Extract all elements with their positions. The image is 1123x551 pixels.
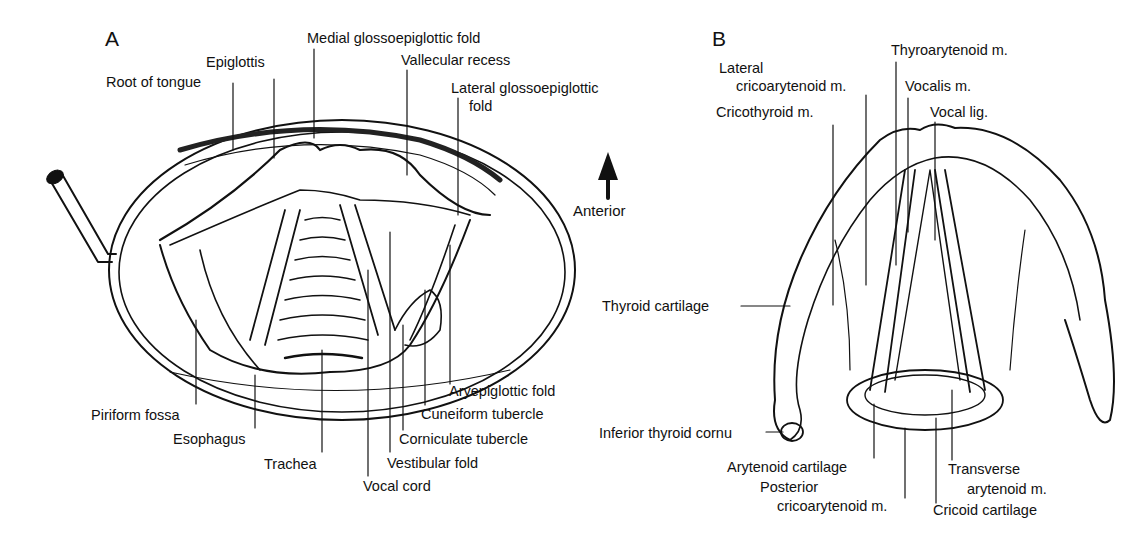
label-medial-glossoepiglottic-fold: Medial glossoepiglottic fold bbox=[307, 30, 480, 46]
label-trachea: Trachea bbox=[264, 456, 317, 472]
label-piriform-fossa: Piriform fossa bbox=[91, 407, 180, 423]
panel-b-letter: B bbox=[712, 28, 726, 50]
label-cuneiform-tubercle: Cuneiform tubercle bbox=[421, 406, 544, 422]
anterior-arrow-drawing bbox=[598, 152, 618, 198]
label-lateral-cricoarytenoid-cont: cricoarytenoid m. bbox=[736, 78, 846, 94]
panel-b-drawing bbox=[741, 62, 1114, 503]
label-vocalis-m: Vocalis m. bbox=[905, 78, 971, 94]
label-arytenoid-cartilage: Arytenoid cartilage bbox=[727, 459, 847, 475]
label-lateral-cricoarytenoid: Lateral bbox=[719, 60, 763, 76]
label-transverse-arytenoid: Transverse bbox=[948, 461, 1020, 477]
label-epiglottis: Epiglottis bbox=[206, 54, 265, 70]
label-vallecular-recess: Vallecular recess bbox=[401, 52, 510, 68]
anterior-label: Anterior bbox=[573, 203, 626, 219]
label-lateral-glossoepiglottic-fold: Lateral glossoepiglottic bbox=[451, 80, 599, 96]
label-esophagus: Esophagus bbox=[173, 431, 246, 447]
label-posterior-cricoarytenoid: Posterior bbox=[760, 479, 818, 495]
label-transverse-arytenoid-cont: arytenoid m. bbox=[967, 481, 1047, 497]
label-vestibular-fold: Vestibular fold bbox=[387, 455, 478, 471]
label-thyroid-cartilage: Thyroid cartilage bbox=[602, 298, 709, 314]
label-root-of-tongue: Root of tongue bbox=[106, 74, 201, 90]
label-inferior-thyroid-cornu: Inferior thyroid cornu bbox=[599, 425, 732, 441]
label-lateral-glossoepiglottic-fold-cont: fold bbox=[469, 98, 492, 114]
label-vocal-cord: Vocal cord bbox=[363, 478, 431, 494]
label-cricoid-cartilage: Cricoid cartilage bbox=[933, 502, 1037, 518]
label-thyroarytenoid-m: Thyroarytenoid m. bbox=[891, 42, 1008, 58]
label-posterior-cricoarytenoid-cont: cricoarytenoid m. bbox=[777, 498, 887, 514]
panel-a-letter: A bbox=[105, 28, 119, 50]
label-aryepiglottic-fold: Aryepiglottic fold bbox=[449, 383, 555, 399]
label-corniculate-tubercle: Corniculate tubercle bbox=[399, 431, 528, 447]
label-cricothyroid-m: Cricothyroid m. bbox=[716, 104, 814, 120]
label-vocal-lig: Vocal lig. bbox=[930, 104, 988, 120]
